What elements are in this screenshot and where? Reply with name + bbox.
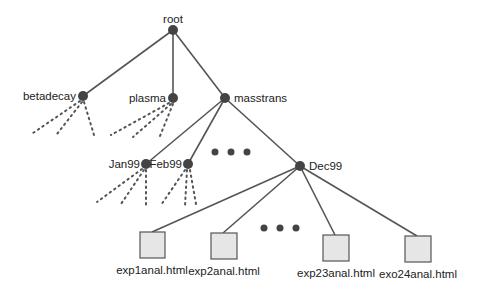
tree-edges <box>83 30 417 236</box>
tree-node-masstrans <box>220 93 230 103</box>
file-box-exo24anal <box>405 236 431 262</box>
label-exp23anal: exp23anal.html <box>297 267 375 279</box>
file-box-exp23anal <box>323 235 349 261</box>
label-root: root <box>163 13 184 25</box>
tree-node-root <box>168 25 178 35</box>
tree-node-feb99 <box>183 159 193 169</box>
tree-node-betadecay <box>78 91 88 101</box>
ellipsis-files <box>261 225 300 232</box>
tree-node-dec99 <box>295 161 305 171</box>
label-exp1anal: exp1anal.html <box>116 264 188 276</box>
label-masstrans: masstrans <box>234 92 287 104</box>
file-box-exp1anal <box>140 232 165 258</box>
tree-node-plasma <box>168 93 178 103</box>
label-exo24anal: exo24anal.html <box>379 268 457 280</box>
file-box-exp2anal <box>211 233 237 259</box>
ellipsis-months <box>212 149 251 156</box>
label-feb99: Feb99 <box>149 158 182 170</box>
elided-subtree-edges <box>33 101 196 206</box>
label-exp2anal: exp2anal.html <box>188 265 260 277</box>
label-betadecay: betadecay <box>23 90 76 102</box>
label-dec99: Dec99 <box>309 160 342 172</box>
label-plasma: plasma <box>129 92 167 104</box>
label-jan99: Jan99 <box>109 158 140 170</box>
directory-tree-diagram: root betadecay plasma masstrans Jan99 Fe… <box>0 0 481 293</box>
